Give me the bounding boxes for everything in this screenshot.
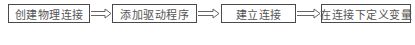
arrow-right-icon xyxy=(90,8,112,19)
step-add-driver: 添加驱动程序 xyxy=(112,4,197,23)
arrow-right-icon xyxy=(197,8,220,19)
step-label: 在连接下定义变量 xyxy=(320,6,412,22)
arrow-right-icon xyxy=(296,8,321,19)
step-establish-connection: 建立连接 xyxy=(221,4,296,23)
step-label: 添加驱动程序 xyxy=(120,6,189,22)
step-label: 建立连接 xyxy=(236,6,282,22)
step-define-variables: 在连接下定义变量 xyxy=(321,4,411,23)
step-create-physical-connection: 创建物理连接 xyxy=(8,4,90,23)
step-label: 创建物理连接 xyxy=(15,6,84,22)
